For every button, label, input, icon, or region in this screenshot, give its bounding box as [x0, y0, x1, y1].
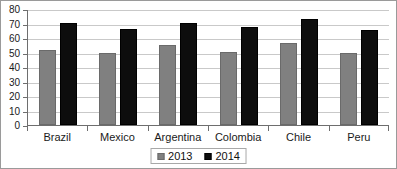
- y-tick-label: 40: [9, 63, 20, 73]
- bar-peru-2014: [361, 30, 378, 125]
- bars-layer: [28, 10, 389, 125]
- bar-chile-2014: [301, 19, 318, 125]
- bar-group-chile: [269, 10, 329, 125]
- y-tick-label: 30: [9, 78, 20, 88]
- x-tick-label-peru: Peru: [329, 131, 389, 144]
- bar-group-colombia: [209, 10, 269, 125]
- bar-chart: 80 70 60 50 40 30 20 10 0: [0, 0, 397, 169]
- x-tick-label-argentina: Argentina: [148, 131, 208, 144]
- bar-mexico-2014: [120, 29, 137, 125]
- bar-colombia-2014: [241, 27, 258, 125]
- bar-colombia-2013: [220, 52, 237, 125]
- bar-argentina-2013: [159, 45, 176, 126]
- bar-group-peru: [329, 10, 389, 125]
- legend: 2013 2014: [150, 148, 247, 164]
- legend-swatch-icon: [205, 153, 212, 160]
- bar-chile-2013: [280, 43, 297, 125]
- legend-label: 2014: [216, 150, 240, 162]
- legend-item-2013: 2013: [157, 150, 192, 162]
- bar-brazil-2013: [39, 50, 56, 125]
- y-tick-label: 0: [14, 121, 20, 131]
- x-tick-label-colombia: Colombia: [208, 131, 268, 144]
- x-tick-label-brazil: Brazil: [27, 131, 87, 144]
- bar-group-argentina: [148, 10, 208, 125]
- bar-group-mexico: [88, 10, 148, 125]
- legend-label: 2013: [168, 150, 192, 162]
- bar-argentina-2014: [180, 23, 197, 125]
- y-tick-label: 50: [9, 49, 20, 59]
- y-tick-label: 80: [9, 5, 20, 15]
- x-axis: Brazil Mexico Argentina Colombia Chile P…: [27, 131, 389, 144]
- bar-brazil-2014: [60, 23, 77, 125]
- legend-swatch-icon: [157, 153, 164, 160]
- x-tick-label-mexico: Mexico: [87, 131, 147, 144]
- bar-mexico-2013: [99, 53, 116, 125]
- y-axis: 80 70 60 50 40 30 20 10 0: [1, 1, 27, 126]
- bar-group-brazil: [28, 10, 88, 125]
- y-tick-label: 70: [9, 20, 20, 30]
- legend-item-2014: 2014: [205, 150, 240, 162]
- bar-peru-2013: [340, 53, 357, 125]
- x-tick-label-chile: Chile: [268, 131, 328, 144]
- y-tick-label: 20: [9, 92, 20, 102]
- plot-area: [27, 10, 389, 126]
- y-tick-label: 10: [9, 107, 20, 117]
- y-tick-label: 60: [9, 34, 20, 44]
